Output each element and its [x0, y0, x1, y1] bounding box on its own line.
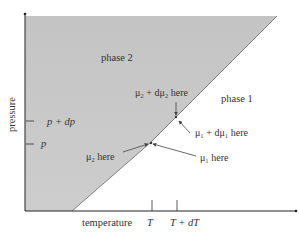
mu1-plus-dmu1-label: μ₁ + dμ₁ here: [195, 127, 249, 138]
y-tick-label-p-plus-dp: p + dp: [46, 116, 75, 127]
x-tick-label-T: T: [147, 217, 154, 228]
phase-1-label: phase 1: [221, 93, 253, 104]
x-axis-end-dot: [295, 210, 298, 213]
x-tick-label-T-plus-dT: T + dT: [170, 217, 200, 228]
y-axis-label: pressure: [6, 97, 17, 132]
phase-diagram: p + dp p T T + dT temperature pressure p…: [0, 0, 299, 238]
mu1-arrow: [153, 144, 196, 156]
mu1-plus-dmu1-arrow: [179, 121, 190, 133]
phase-2-label: phase 2: [101, 52, 133, 63]
coexistence-point-2: [175, 116, 177, 118]
phase-2-region: [25, 16, 277, 211]
y-axis-end-dot: [24, 13, 27, 16]
coexistence-point-1: [150, 142, 152, 144]
mu2-label: μ₂ here: [86, 151, 115, 162]
x-axis-label: temperature: [82, 217, 132, 228]
mu1-label: μ₁ here: [200, 152, 229, 163]
y-tick-label-p: p: [40, 138, 46, 149]
mu2-plus-dmu2-label: μ₂ + dμ₂ here: [135, 87, 189, 98]
